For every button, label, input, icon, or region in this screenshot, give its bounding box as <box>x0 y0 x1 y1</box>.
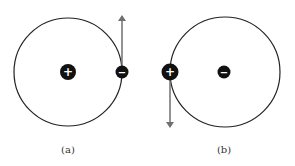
minus-sign-icon: − <box>220 67 228 78</box>
panel-b: − + (b) <box>162 17 281 155</box>
orbit-diagram: + − (a) − + (b) <box>0 0 295 166</box>
minus-sign-icon: − <box>118 67 126 78</box>
panel-label-a: (a) <box>61 144 75 155</box>
panel-label-b: (b) <box>217 144 231 155</box>
plus-sign-icon: + <box>165 65 175 79</box>
nucleus-negative-b: − <box>218 66 231 79</box>
nucleus-positive-a: + <box>60 64 76 80</box>
particle-positive-b: + <box>162 64 179 81</box>
electron-negative-a: − <box>116 66 129 79</box>
panel-a: + − (a) <box>14 16 129 155</box>
plus-sign-icon: + <box>63 65 73 79</box>
